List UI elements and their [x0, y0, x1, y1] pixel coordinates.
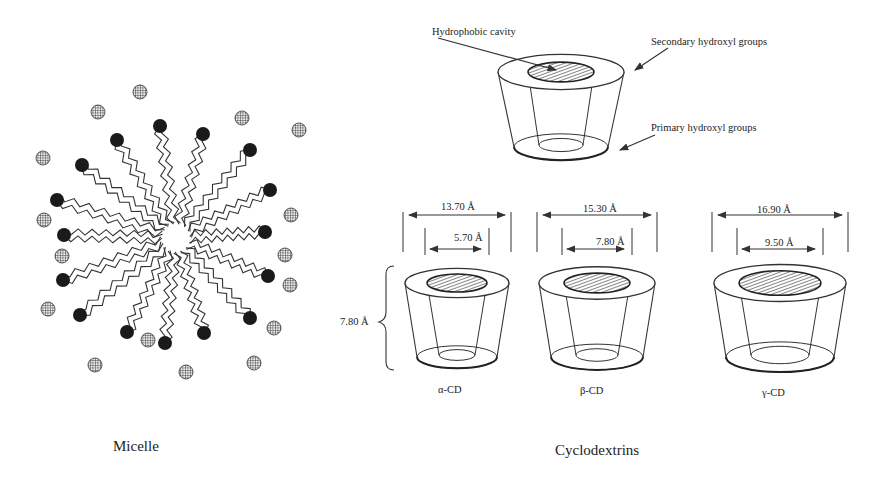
- counterion: [88, 358, 102, 372]
- gamma-inner-diameter: 9.50 Å: [765, 237, 794, 248]
- beta-cd-label: β-CD: [580, 385, 603, 396]
- counterion: [284, 208, 298, 222]
- diagram-canvas: [0, 0, 878, 483]
- hydrocarbon-tail: [63, 243, 163, 283]
- counterion: [91, 105, 105, 119]
- polar-head: [243, 143, 257, 157]
- counterion: [36, 151, 50, 165]
- micelle-caption: Micelle: [113, 438, 159, 455]
- label-primary-hydroxyl: Primary hydroxyl groups: [651, 122, 757, 133]
- hydrocarbon-tail: [159, 251, 174, 342]
- alpha-cd-label: α-CD: [438, 384, 462, 395]
- hydrocarbon-tail: [61, 237, 161, 277]
- polar-head: [263, 183, 277, 197]
- hydrophobic-cavity: [564, 273, 630, 293]
- hydrocarbon-tail: [121, 247, 166, 329]
- counterion: [283, 278, 297, 292]
- hydrophobic-cavity: [739, 271, 821, 296]
- counterion: [37, 213, 51, 227]
- hydrocarbon-tail: [189, 240, 268, 276]
- hydrocarbon-tail: [190, 154, 255, 231]
- counterion: [179, 365, 193, 379]
- hydrophobic-cavity: [427, 274, 487, 292]
- polar-head: [153, 119, 167, 133]
- polar-head: [196, 127, 210, 141]
- polar-head: [258, 225, 272, 239]
- hydrocarbon-tail: [175, 134, 203, 224]
- counterion: [55, 249, 69, 263]
- polar-head: [158, 336, 172, 350]
- counterion: [247, 356, 261, 370]
- gamma-cd-label: γ-CD: [762, 387, 785, 398]
- polar-head: [243, 311, 257, 325]
- cyclodextrin-general-diagram: [438, 38, 668, 160]
- counterion: [235, 111, 249, 125]
- polar-head: [75, 158, 89, 172]
- hydrocarbon-tail: [162, 125, 181, 223]
- height-brace: [379, 266, 394, 370]
- label-hydrophobic-cavity: Hydrophobic cavity: [432, 26, 516, 37]
- polar-head: [73, 308, 87, 322]
- polar-head: [261, 269, 275, 283]
- counterion: [292, 123, 306, 137]
- micelle-diagram: [36, 85, 306, 379]
- alpha-inner-diameter: 5.70 Å: [454, 232, 483, 243]
- alpha-outer-diameter: 13.70 Å: [441, 201, 475, 212]
- label-secondary-hydroxyl: Secondary hydroxyl groups: [651, 36, 767, 47]
- polar-head: [50, 193, 64, 207]
- polar-head: [120, 325, 134, 339]
- hydrocarbon-tail: [80, 247, 165, 315]
- hydrocarbon-tail: [127, 251, 172, 333]
- counterion: [278, 248, 292, 262]
- hydrocarbon-tail: [86, 160, 169, 225]
- hydrocarbon-tail: [82, 165, 165, 230]
- gamma-outer-diameter: 16.90 Å: [757, 204, 791, 215]
- polar-head: [197, 326, 211, 340]
- counterion: [267, 321, 281, 335]
- hydrocarbon-tail: [188, 187, 270, 231]
- height-label: 7.80 Å: [340, 316, 369, 327]
- cyclodextrins-caption: Cyclodextrins: [555, 442, 639, 459]
- counterion: [141, 333, 155, 347]
- beta-outer-diameter: 15.30 Å: [583, 203, 617, 214]
- polar-head: [57, 228, 71, 242]
- hydrocarbon-tail: [181, 253, 246, 323]
- counterion: [41, 302, 55, 316]
- counterion: [133, 85, 147, 99]
- beta-inner-diameter: 7.80 Å: [596, 236, 625, 247]
- polar-head: [110, 133, 124, 147]
- hydrocarbon-tail: [59, 194, 165, 231]
- polar-head: [56, 273, 70, 287]
